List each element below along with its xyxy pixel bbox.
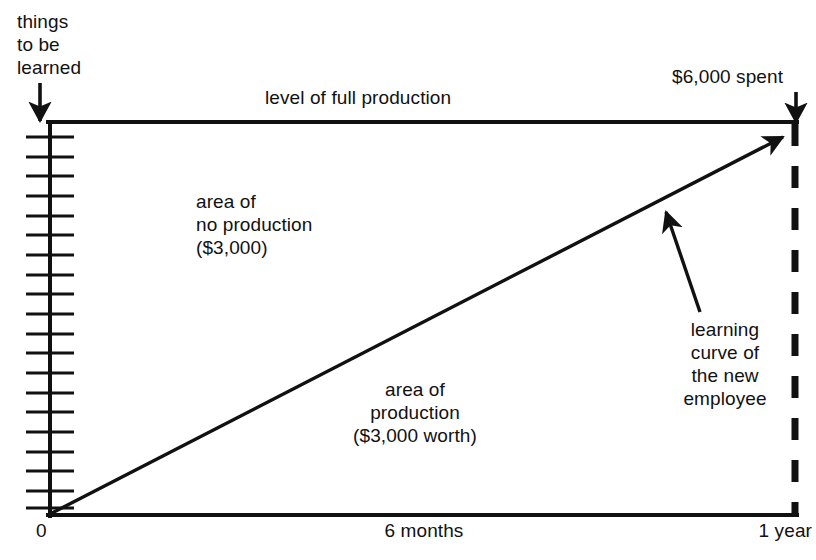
x-axis-tick-label-one-year: 1 year (700, 519, 812, 542)
learning-curve-callout-arrow (666, 212, 700, 312)
learning-curve-figure: things to be learned level of full produ… (0, 0, 816, 560)
things-to-be-learned-label: things to be learned (17, 10, 81, 79)
x-axis-tick-label-six-months: 6 months (340, 519, 508, 542)
area-of-no-production-label: area of no production ($3,000) (196, 190, 312, 259)
amount-spent-label: $6,000 spent (672, 65, 783, 88)
learning-curve-callout-label: learning curve of the new employee (660, 318, 790, 410)
level-of-full-production-label: level of full production (265, 86, 451, 109)
x-axis-tick-label-zero: 0 (36, 519, 47, 542)
area-of-production-label: area of production ($3,000 worth) (310, 378, 520, 447)
